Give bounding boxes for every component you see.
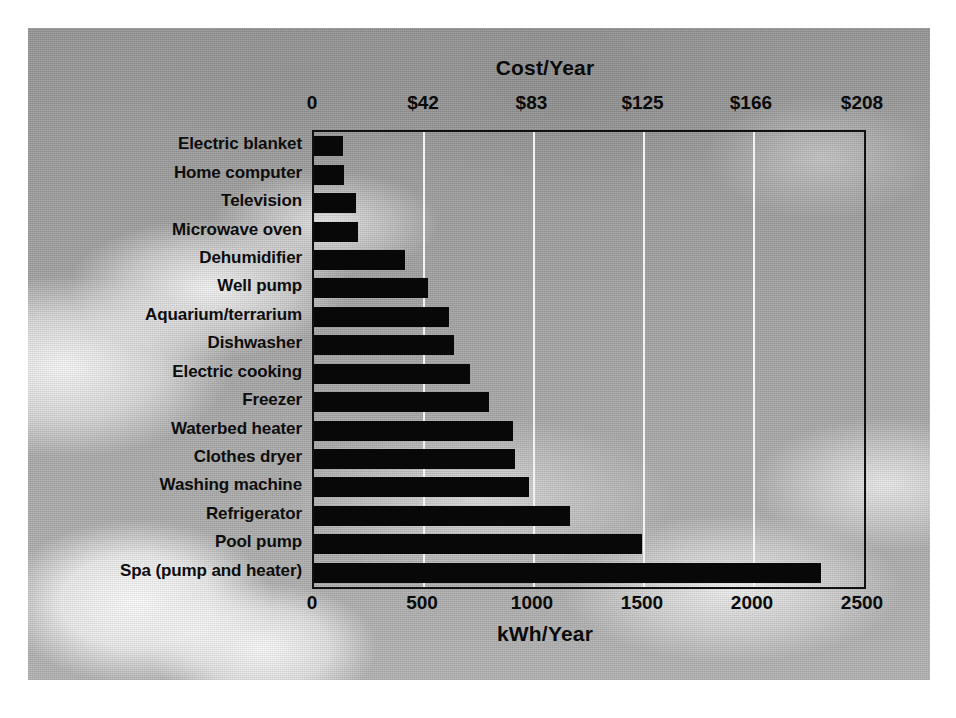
bar — [314, 165, 344, 185]
bar — [314, 563, 821, 583]
top-axis-title: Cost/Year — [0, 56, 956, 80]
category-label: Home computer — [174, 163, 302, 183]
bar — [314, 477, 529, 497]
axis-tick-label: 500 — [406, 592, 438, 614]
category-label: Spa (pump and heater) — [120, 561, 302, 581]
category-label: Microwave oven — [172, 220, 302, 240]
category-label: Freezer — [242, 390, 302, 410]
category-label: Well pump — [217, 276, 302, 296]
bar — [314, 392, 489, 412]
axis-tick-label: 2500 — [841, 592, 883, 614]
axis-tick-label: $42 — [407, 92, 439, 114]
bar — [314, 193, 356, 213]
bar — [314, 307, 449, 327]
bar — [314, 250, 405, 270]
category-label: Washing machine — [160, 475, 302, 495]
chart-page: Cost/Year 0$42$83$125$166$208 Electric b… — [0, 0, 956, 718]
bar — [314, 136, 343, 156]
axis-tick-label: 2000 — [731, 592, 773, 614]
axis-tick-label: $83 — [516, 92, 548, 114]
bar — [314, 534, 642, 554]
category-label: Electric blanket — [178, 134, 302, 154]
bar — [314, 449, 515, 469]
bar — [314, 421, 513, 441]
category-label: Electric cooking — [172, 362, 302, 382]
top-axis-tick-labels: 0$42$83$125$166$208 — [0, 92, 956, 114]
bar — [314, 364, 470, 384]
axis-tick-label: 0 — [307, 592, 318, 614]
axis-tick-label: $166 — [730, 92, 772, 114]
category-label: Clothes dryer — [194, 447, 302, 467]
category-label: Dishwasher — [208, 333, 302, 353]
bar — [314, 335, 454, 355]
plot-area — [312, 130, 866, 589]
category-label: Pool pump — [215, 532, 302, 552]
axis-tick-label: 0 — [307, 92, 318, 114]
bar — [314, 506, 570, 526]
axis-tick-label: $125 — [621, 92, 663, 114]
gridline — [643, 132, 645, 587]
bar — [314, 278, 428, 298]
bottom-axis-title: kWh/Year — [0, 622, 956, 646]
gridline — [753, 132, 755, 587]
category-label: Refrigerator — [206, 504, 302, 524]
category-label: Waterbed heater — [171, 419, 302, 439]
bar — [314, 222, 358, 242]
category-label: Television — [221, 191, 302, 211]
category-label: Aquarium/terrarium — [145, 305, 302, 325]
axis-tick-label: $208 — [841, 92, 883, 114]
axis-tick-label: 1500 — [621, 592, 663, 614]
category-axis-labels: Electric blanketHome computerTelevisionM… — [60, 130, 308, 585]
axis-tick-label: 1000 — [511, 592, 553, 614]
bottom-axis-tick-labels: 05001000150020002500 — [0, 592, 956, 614]
category-label: Dehumidifier — [199, 248, 302, 268]
